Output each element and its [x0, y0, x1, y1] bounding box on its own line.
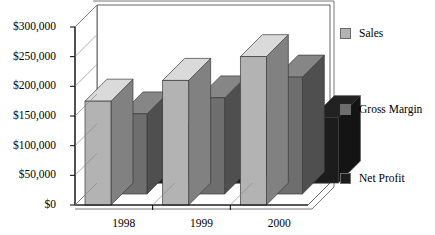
x-axis-tick-label-1998: 1998 — [112, 217, 135, 229]
bar-sales-2000 — [240, 35, 288, 205]
legend-label: Sales — [359, 27, 383, 39]
legend-item-net-profit[interactable]: Net Profit — [340, 172, 405, 184]
legend-item-sales[interactable]: Sales — [340, 27, 383, 39]
legend-label: Gross Margin — [359, 103, 422, 115]
chart-legend: SalesGross MarginNet Profit — [340, 0, 435, 235]
bar-sales-1998 — [85, 79, 133, 205]
x-axis-tick-label-2000: 2000 — [268, 217, 291, 229]
legend-swatch-icon — [340, 28, 351, 39]
legend-item-gross-margin[interactable]: Gross Margin — [340, 103, 422, 115]
x-axis-tick-label-1999: 1999 — [190, 217, 213, 229]
legend-swatch-icon — [340, 173, 351, 184]
legend-swatch-icon — [340, 104, 351, 115]
chart-screenshot: $0$50,000$100,000$150,000$200,000$250,00… — [0, 0, 435, 235]
legend-label: Net Profit — [359, 172, 405, 184]
bar-sales-1999 — [163, 58, 211, 205]
